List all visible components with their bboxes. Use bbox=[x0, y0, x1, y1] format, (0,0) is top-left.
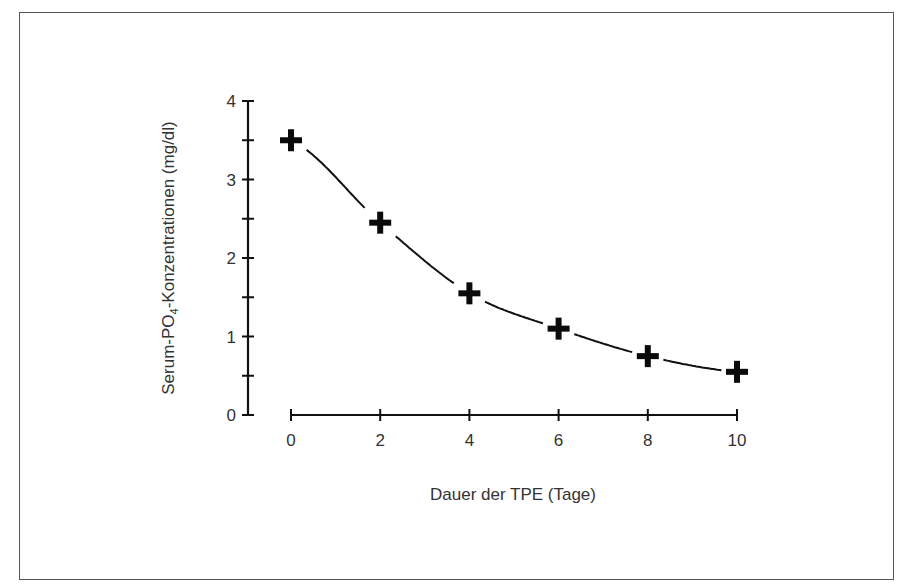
plus-marker-icon bbox=[637, 345, 659, 367]
chart-plot: 01234 0246810 Dauer der TPE (Tage) Serum… bbox=[0, 0, 905, 587]
x-tick-label: 0 bbox=[286, 431, 295, 450]
x-tick-label: 6 bbox=[554, 431, 563, 450]
y-tick-label: 2 bbox=[227, 249, 236, 268]
x-tick-label: 10 bbox=[728, 431, 747, 450]
y-axis-title-rest: -Konzentrationen (mg/dl) bbox=[159, 121, 178, 308]
plus-marker-icon bbox=[726, 361, 748, 383]
curve-segment bbox=[485, 302, 543, 324]
curve-segment bbox=[663, 360, 721, 370]
x-tick-label: 8 bbox=[643, 431, 652, 450]
fit-curve bbox=[307, 150, 722, 370]
x-axis-title: Dauer der TPE (Tage) bbox=[430, 485, 596, 504]
y-tick-label: 0 bbox=[227, 406, 236, 425]
x-tick-label: 4 bbox=[465, 431, 474, 450]
curve-segment bbox=[574, 334, 632, 352]
data-markers bbox=[280, 129, 748, 383]
y-axis-title-main: Serum-PO bbox=[159, 314, 178, 394]
y-tick-label: 4 bbox=[227, 92, 236, 111]
plus-marker-icon bbox=[280, 129, 302, 151]
y-axis: 01234 bbox=[227, 92, 254, 425]
plus-marker-icon bbox=[458, 282, 480, 304]
x-axis: 0246810 bbox=[286, 409, 746, 450]
y-tick-label: 1 bbox=[227, 328, 236, 347]
x-tick-label: 2 bbox=[375, 431, 384, 450]
plus-marker-icon bbox=[369, 212, 391, 234]
curve-segment bbox=[307, 150, 365, 208]
curve-segment bbox=[396, 236, 454, 283]
plus-marker-icon bbox=[548, 318, 570, 340]
y-axis-title: Serum-PO4-Konzentrationen (mg/dl) bbox=[159, 121, 180, 395]
y-tick-label: 3 bbox=[227, 171, 236, 190]
